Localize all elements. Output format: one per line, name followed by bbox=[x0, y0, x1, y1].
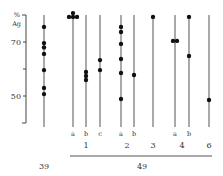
data-point bbox=[42, 92, 46, 96]
data-point bbox=[84, 78, 88, 82]
sub-labels: abcabab bbox=[71, 130, 191, 138]
sub-label: c bbox=[98, 130, 102, 138]
data-point bbox=[187, 54, 191, 58]
data-point bbox=[42, 68, 46, 72]
y-tick-label: 50 bbox=[11, 92, 21, 101]
column-39 bbox=[42, 15, 46, 127]
column-4b bbox=[187, 15, 191, 127]
group-label: 2 bbox=[124, 141, 129, 150]
group-label: 4 bbox=[179, 141, 184, 150]
data-point bbox=[84, 74, 88, 78]
column-3 bbox=[151, 15, 155, 127]
data-point bbox=[84, 70, 88, 74]
data-point bbox=[119, 25, 123, 29]
chart: 7050 %Ag abcabab 12346 3949 bbox=[0, 0, 223, 176]
data-point bbox=[71, 11, 75, 15]
group-label: 3 bbox=[150, 141, 155, 150]
y-axis: 7050 bbox=[11, 15, 26, 123]
column-1c bbox=[98, 15, 102, 127]
data-point bbox=[98, 58, 102, 62]
data-point bbox=[119, 42, 123, 46]
svg-text:Ag: Ag bbox=[11, 20, 21, 28]
column-6 bbox=[207, 15, 211, 127]
sub-label: a bbox=[173, 130, 177, 138]
data-columns bbox=[42, 11, 211, 127]
data-point bbox=[71, 15, 75, 19]
sub-label: b bbox=[132, 130, 136, 138]
data-point bbox=[207, 98, 211, 102]
data-point bbox=[75, 15, 79, 19]
y-tick-label: 70 bbox=[11, 38, 21, 47]
group-label: 1 bbox=[83, 141, 88, 150]
group-label: 6 bbox=[206, 141, 211, 150]
category-label: 39 bbox=[39, 162, 49, 171]
data-point bbox=[119, 30, 123, 34]
data-point bbox=[42, 86, 46, 90]
group-labels: 12346 bbox=[83, 141, 211, 150]
data-point bbox=[98, 68, 102, 72]
y-axis-label: %Ag bbox=[11, 11, 21, 28]
category-label: 49 bbox=[137, 162, 147, 171]
data-point bbox=[151, 15, 155, 19]
column-2a bbox=[119, 15, 123, 127]
data-point bbox=[171, 39, 175, 43]
sub-label: b bbox=[187, 130, 191, 138]
data-point bbox=[119, 57, 123, 61]
column-4a bbox=[171, 15, 179, 127]
data-point bbox=[42, 25, 46, 29]
data-point bbox=[67, 15, 71, 19]
column-2b bbox=[132, 15, 136, 127]
data-point bbox=[119, 71, 123, 75]
column-1a bbox=[67, 11, 79, 127]
column-1b bbox=[84, 15, 88, 127]
data-point bbox=[119, 97, 123, 101]
sub-label: a bbox=[71, 130, 75, 138]
svg-text:%: % bbox=[14, 11, 20, 19]
category-labels: 3949 bbox=[39, 162, 147, 171]
data-point bbox=[42, 41, 46, 45]
sub-label: a bbox=[119, 130, 123, 138]
data-point bbox=[175, 39, 179, 43]
data-point bbox=[42, 45, 46, 49]
sub-label: b bbox=[84, 130, 88, 138]
data-point bbox=[42, 52, 46, 56]
data-point bbox=[132, 73, 136, 77]
data-point bbox=[187, 15, 191, 19]
